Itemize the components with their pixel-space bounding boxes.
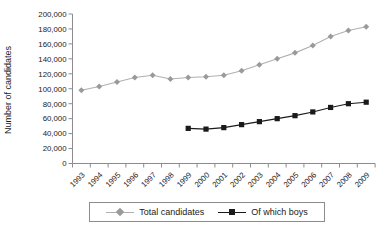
y-tick-label: 0 [62, 159, 67, 168]
legend-item-of-which-boys: Of which boys [218, 207, 308, 217]
x-tick-label: 1993 [68, 171, 87, 190]
data-point-diamond [185, 75, 191, 81]
data-point-square [346, 101, 351, 106]
x-tick-label: 1994 [86, 170, 105, 189]
total-candidates-line-diamond-icon [106, 209, 134, 216]
x-tick-label: 2007 [317, 171, 336, 190]
data-point-diamond [292, 50, 298, 56]
y-tick-label: 100,000 [38, 85, 67, 94]
x-tick-label: 2002 [228, 171, 247, 190]
x-tick-label: 2006 [300, 171, 319, 190]
y-tick-label: 140,000 [38, 55, 67, 64]
of-which-boys-line-square-icon [218, 209, 246, 216]
series-total-candidates [78, 24, 369, 94]
data-point-diamond [132, 75, 138, 81]
chart-container: Number of candidates 020,00040,00060,000… [0, 0, 385, 232]
data-point-square [257, 119, 262, 124]
x-tick-label: 1996 [122, 171, 141, 190]
series-of-which-boys [186, 100, 369, 132]
y-tick-label: 60,000 [43, 114, 68, 123]
legend-label-total-candidates: Total candidates [139, 207, 204, 217]
y-tick-label: 120,000 [38, 70, 67, 79]
data-point-diamond [328, 33, 334, 39]
x-tick-label: 2000 [193, 170, 212, 189]
chart-plot-area: 020,00040,00060,00080,000100,000120,0001… [0, 0, 385, 200]
legend: Total candidates Of which boys [89, 202, 325, 222]
x-tick-label: 2001 [211, 171, 230, 190]
y-tick-label: 160,000 [38, 40, 67, 49]
data-point-diamond [167, 76, 173, 82]
data-point-diamond [150, 72, 156, 78]
legend-item-total-candidates: Total candidates [106, 207, 204, 217]
legend-label-of-which-boys: Of which boys [251, 207, 308, 217]
data-point-diamond [274, 56, 280, 62]
x-tick-label: 2009 [353, 171, 372, 190]
data-point-diamond [96, 84, 102, 90]
data-point-square [221, 125, 226, 130]
y-tick-label: 80,000 [43, 100, 68, 109]
x-tick-label: 2008 [335, 171, 354, 190]
y-tick-label: 40,000 [43, 129, 68, 138]
x-tick-label: 2003 [246, 171, 265, 190]
data-point-diamond [310, 42, 316, 48]
data-point-square [328, 105, 333, 110]
data-point-diamond [363, 24, 369, 30]
y-tick-label: 20,000 [43, 144, 68, 153]
data-point-diamond [239, 68, 245, 74]
data-point-square [239, 122, 244, 127]
data-point-diamond [114, 79, 120, 85]
data-point-square [364, 100, 369, 105]
data-point-diamond [78, 87, 84, 93]
data-point-diamond [221, 72, 227, 78]
y-tick-label: 180,000 [38, 25, 67, 34]
x-tick-label: 2004 [264, 170, 283, 189]
y-axis-ticks: 020,00040,00060,00080,000100,000120,0001… [38, 10, 72, 169]
data-point-square [292, 113, 297, 118]
data-point-square [310, 109, 315, 114]
x-tick-label: 1997 [139, 171, 158, 190]
x-tick-label: 1995 [104, 170, 123, 189]
data-point-diamond [256, 62, 262, 68]
data-point-square [275, 116, 280, 121]
x-tick-label: 1999 [175, 171, 194, 190]
data-point-square [203, 127, 208, 132]
x-tick-label: 2005 [282, 170, 301, 189]
data-point-diamond [203, 74, 209, 80]
y-tick-label: 200,000 [38, 10, 67, 19]
x-tick-label: 1998 [157, 171, 176, 190]
data-point-diamond [345, 27, 351, 33]
x-axis-ticks: 1993199419951996199719981999200020012002… [68, 164, 375, 190]
data-point-square [186, 126, 191, 131]
